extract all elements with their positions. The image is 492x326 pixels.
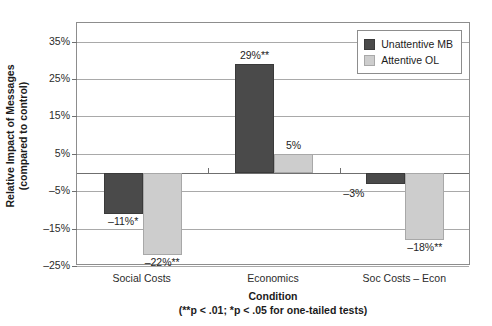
legend-label-attentive-ol: Attentive OL [381,54,439,66]
y-axis-tick-mark [72,191,77,192]
y-axis-tick-label: –15% [26,222,70,234]
plot-area: Unattentive MB Attentive OL –11%*–22%**2… [76,22,470,265]
y-axis-tick-label: 25% [26,72,70,84]
x-axis-tick-mark [340,168,341,173]
y-axis-tick-mark [72,229,77,230]
y-axis-tick-mark [72,79,77,80]
x-axis-tick-mark [208,168,209,173]
bar [104,173,143,214]
legend-label-unattentive-mb: Unattentive MB [381,38,453,50]
y-axis-tick-label: 35% [26,35,70,47]
chart-legend: Unattentive MB Attentive OL [357,30,462,74]
bar-value-label: –18%** [407,241,442,253]
legend-swatch-icon-light [364,55,375,66]
gridline [77,266,469,267]
bar [405,173,444,240]
y-axis-tick-label: 15% [26,109,70,121]
x-axis-significance-note: (**p < .01; *p < .05 for one-tailed test… [76,303,470,317]
x-axis-title-block: Condition (**p < .01; *p < .05 for one-t… [76,290,470,317]
x-axis-title: Condition [76,290,470,303]
legend-item-unattentive-mb: Unattentive MB [364,36,453,52]
x-axis-tick-label: Economics [247,272,298,284]
bar [143,173,182,255]
bar-value-label: –22%** [145,256,180,268]
bar-value-label: 5% [286,139,301,151]
y-axis-tick-label: 5% [26,147,70,159]
y-axis-tick-mark [72,42,77,43]
y-axis-tick-mark [72,266,77,267]
y-axis-tick-mark [72,116,77,117]
bar [366,173,405,184]
bar-chart-figure: Relative Impact of Messages (compared to… [0,0,492,326]
bar [235,64,274,172]
y-axis-tick-label: –5% [26,184,70,196]
bar [274,154,313,173]
bar-value-label: –11%* [108,215,138,227]
y-axis-title-line1: Relative Impact of Messages [4,65,16,208]
y-axis-tick-mark [72,154,77,155]
legend-item-attentive-ol: Attentive OL [364,52,453,68]
bar-value-label: –3% [343,187,364,199]
x-axis-tick-label: Soc Costs – Econ [363,272,446,284]
bar-value-label: 29%** [240,49,269,61]
y-axis-tick-label: –25% [26,259,70,271]
legend-swatch-icon-dark [364,39,375,50]
x-axis-tick-label: Social Costs [112,272,170,284]
y-axis-tick-labels: 35%25%15%5%–5%–15%–25% [26,0,70,326]
